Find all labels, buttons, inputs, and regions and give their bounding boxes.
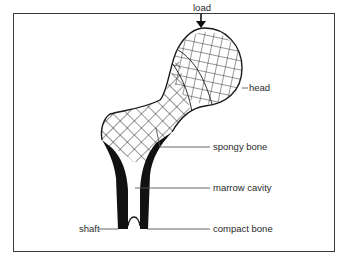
femur-diagram bbox=[0, 0, 344, 264]
label-spongy-bone: spongy bone bbox=[213, 142, 267, 152]
load-arrow-icon bbox=[196, 14, 206, 28]
label-shaft: shaft bbox=[79, 224, 100, 234]
label-compact-bone: compact bone bbox=[213, 224, 273, 234]
label-head: head bbox=[249, 83, 270, 93]
shaft-cut bbox=[128, 217, 140, 226]
label-marrow-cavity: marrow cavity bbox=[213, 183, 272, 193]
label-load: load bbox=[193, 3, 211, 13]
